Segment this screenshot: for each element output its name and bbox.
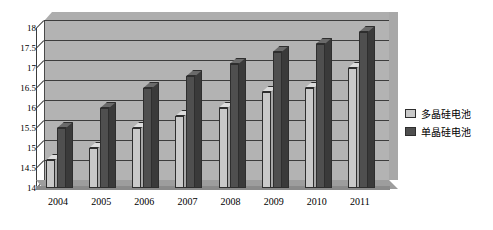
x-axis-tick-label: 2009 [252, 196, 296, 207]
bar-face [89, 148, 98, 188]
x-axis-tick-label: 2006 [122, 196, 166, 207]
bar-side [152, 82, 159, 188]
bar-2005-series-0[interactable] [89, 148, 98, 188]
bar-2005-series-1[interactable] [100, 108, 109, 188]
x-axis-tick-label: 2005 [79, 196, 123, 207]
bar-face [132, 128, 141, 188]
bar-2004-series-1[interactable] [57, 128, 66, 188]
x-axis-tick-label: 2010 [295, 196, 339, 207]
bar-2011-series-0[interactable] [348, 68, 357, 188]
bar-2007-series-0[interactable] [175, 116, 184, 188]
chart-container: 1414.51515.51616.51717.518 2004200520062… [0, 0, 493, 230]
bar-face [100, 108, 109, 188]
bar-face [46, 160, 55, 188]
bar-2006-series-0[interactable] [132, 128, 141, 188]
bar-2006-series-1[interactable] [143, 88, 152, 188]
bar-face [143, 88, 152, 188]
bar-side [282, 46, 289, 188]
bar-2011-series-1[interactable] [359, 32, 368, 188]
bar-side [195, 70, 202, 188]
legend-swatch-icon-0 [405, 109, 416, 118]
bar-2004-series-0[interactable] [46, 160, 55, 188]
bar-2009-series-0[interactable] [262, 92, 271, 188]
x-axis-tick-label: 2008 [209, 196, 253, 207]
legend-item-1[interactable]: 单晶硅电池 [405, 122, 491, 140]
x-axis-tick-label: 2011 [338, 196, 382, 207]
bar-side [325, 38, 332, 188]
x-axis-tick-label: 2004 [36, 196, 80, 207]
bar-2008-series-1[interactable] [230, 64, 239, 188]
bar-2010-series-1[interactable] [316, 44, 325, 188]
bar-face [316, 44, 325, 188]
bar-side [239, 58, 246, 188]
legend-item-0[interactable]: 多晶硅电池 [405, 104, 491, 122]
bar-side [368, 26, 375, 188]
chart-legend: 多晶硅电池 单晶硅电池 [405, 104, 491, 140]
bar-face [219, 108, 228, 188]
bar-face [175, 116, 184, 188]
bar-face [359, 32, 368, 188]
bar-face [186, 76, 195, 188]
bar-face [57, 128, 66, 188]
bar-2009-series-1[interactable] [273, 52, 282, 188]
legend-swatch-icon-1 [405, 127, 416, 136]
bar-face [262, 92, 271, 188]
bar-side [66, 122, 73, 188]
bar-face [230, 64, 239, 188]
legend-label-0: 多晶硅电池 [421, 106, 471, 121]
bar-2007-series-1[interactable] [186, 76, 195, 188]
bar-2008-series-0[interactable] [219, 108, 228, 188]
bar-face [348, 68, 357, 188]
bar-2010-series-0[interactable] [305, 88, 314, 188]
bar-face [273, 52, 282, 188]
bar-face [305, 88, 314, 188]
legend-label-1: 单晶硅电池 [421, 124, 471, 139]
x-axis-tick-label: 2007 [165, 196, 209, 207]
bar-side [109, 102, 116, 188]
